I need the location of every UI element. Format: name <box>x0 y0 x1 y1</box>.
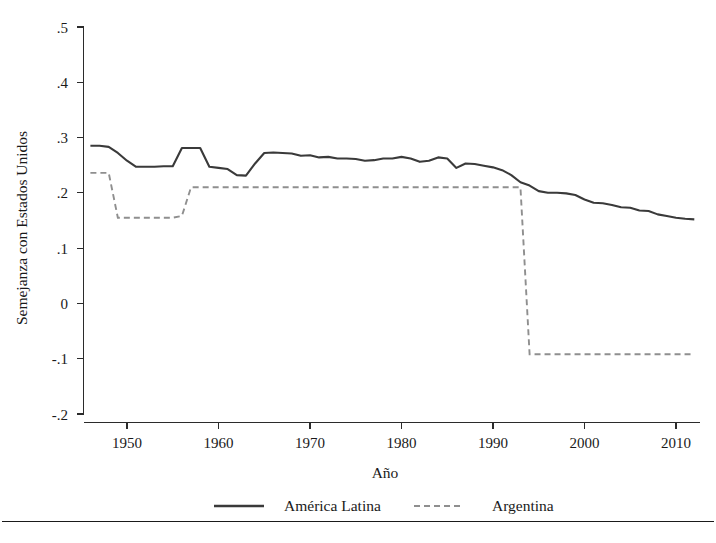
series-line-america-latina <box>90 146 694 220</box>
x-axis-title: Año <box>372 464 399 481</box>
x-tick-label: 1960 <box>204 435 234 451</box>
x-tick-label: 1980 <box>387 435 417 451</box>
similarity-line-chart: Semejanza con Estados Unidos .5 .4 .3 .2… <box>0 0 716 543</box>
y-axis-title: Semejanza con Estados Unidos <box>13 131 30 325</box>
chart-figure: Semejanza con Estados Unidos .5 .4 .3 .2… <box>0 0 716 543</box>
y-axis-ticks: .5 .4 .3 .2 .1 0 -.1 -.2 <box>52 20 84 423</box>
y-tick-label: 0 <box>61 296 69 312</box>
y-tick-label: .3 <box>57 130 68 146</box>
y-tick-label: .2 <box>57 185 68 201</box>
y-tick-label: .4 <box>57 75 69 91</box>
chart-legend: América Latina Argentina <box>214 497 554 514</box>
x-tick-label: 2000 <box>570 435 600 451</box>
y-tick-label: .1 <box>57 241 68 257</box>
legend-label-america-latina: América Latina <box>284 497 381 514</box>
y-tick-label: .5 <box>57 20 68 36</box>
y-tick-label: -.1 <box>52 351 68 367</box>
x-tick-label: 1990 <box>478 435 508 451</box>
legend-label-argentina: Argentina <box>492 497 554 514</box>
y-tick-label: -.2 <box>52 407 68 423</box>
x-tick-label: 1950 <box>112 435 142 451</box>
x-tick-label: 2010 <box>661 435 691 451</box>
series-line-argentina <box>90 173 694 354</box>
x-tick-label: 1970 <box>295 435 325 451</box>
x-axis-ticks: 1950 1960 1970 1980 1990 2000 2010 <box>112 423 691 452</box>
